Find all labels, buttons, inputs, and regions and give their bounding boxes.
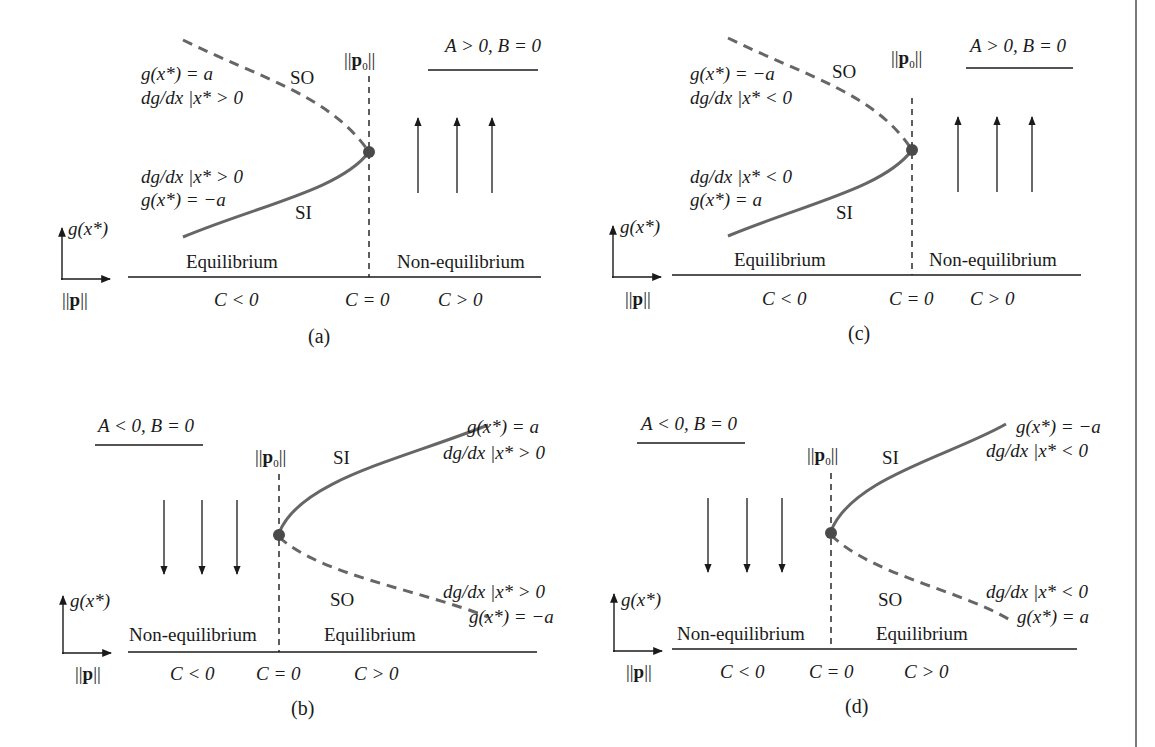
panel-b-si-label: SI (333, 448, 350, 467)
norm-bars: || (625, 288, 633, 309)
panel-c-c-zero: C = 0 (889, 289, 934, 308)
p-symbol: p (899, 47, 910, 68)
panel-d-y-axis-label: g(x*) (621, 590, 661, 609)
panel-b-y-axis-label: g(x*) (70, 591, 110, 610)
panel-b-c-negative: C < 0 (170, 664, 215, 683)
panel-a-c-zero: C = 0 (345, 290, 390, 309)
bifurcation-point (273, 529, 285, 541)
panel-a-right-region: Non-equilibrium (397, 252, 525, 271)
norm-bars: || (75, 663, 83, 684)
panel-c-right-region: Non-equilibrium (929, 250, 1057, 269)
norm-bars: || (644, 661, 652, 682)
p-symbol: p (815, 444, 826, 465)
norm-bars: || (93, 663, 101, 684)
panel-c-caption: (c) (848, 322, 870, 345)
panel-c-x-axis-label: ||p|| (625, 289, 651, 308)
panel-c-so-slope: dg/dx |x* < 0 (690, 88, 792, 107)
norm-bars: || (80, 289, 88, 310)
panel-a-si-g-value: g(x*) = −a (141, 190, 226, 209)
panel-d-critical-label: ||p0|| (807, 445, 838, 467)
norm-bars: || (915, 47, 923, 68)
panel-b-critical-label: ||p0|| (255, 447, 286, 469)
norm-bars: || (344, 49, 352, 70)
panel-b-condition: A < 0, B = 0 (98, 416, 194, 435)
bifurcation-point (825, 527, 837, 539)
panel-a-si-slope: dg/dx |x* > 0 (141, 167, 243, 186)
panel-c-y-axis-label: g(x*) (620, 217, 660, 236)
panel-d-c-zero: C = 0 (809, 662, 854, 681)
panel-c-so-g-value: g(x*) = −a (690, 64, 775, 83)
norm-bars: || (626, 661, 634, 682)
panel-c-condition: A > 0, B = 0 (970, 36, 1066, 55)
panel-d-si-label: SI (882, 448, 899, 467)
panel-c-critical-label: ||p0|| (891, 48, 922, 70)
panel-a-si-label: SI (295, 203, 312, 222)
panel-d-so-g-value: g(x*) = a (1017, 607, 1089, 626)
norm-bars: || (891, 47, 899, 68)
p-symbol: p (352, 49, 363, 70)
panel-d-left-region: Non-equilibrium (677, 624, 805, 643)
norm-bars: || (255, 446, 263, 467)
panel-d-x-axis-label: ||p|| (626, 662, 652, 681)
panel-d-caption: (d) (845, 695, 868, 718)
panel-b-x-axis-label: ||p|| (75, 664, 101, 683)
panel-d-c-negative: C < 0 (720, 662, 765, 681)
panel-b-c-zero: C = 0 (256, 664, 301, 683)
bifurcation-point (363, 146, 375, 158)
panel-d-condition: A < 0, B = 0 (641, 414, 737, 433)
panel-c-si-slope: dg/dx |x* < 0 (690, 167, 792, 186)
norm-bars: || (831, 444, 839, 465)
p-symbol: p (70, 289, 81, 310)
panel-a-left-region: Equilibrium (186, 252, 278, 271)
panel-c-so-label: SO (832, 62, 856, 81)
panel-c-c-negative: C < 0 (762, 289, 807, 308)
panel-c-left-region: Equilibrium (734, 250, 826, 269)
panel-a-caption: (a) (308, 325, 330, 348)
panel-b-caption: (b) (291, 697, 314, 720)
so-branch (279, 537, 488, 617)
panel-b-so-slope: dg/dx |x* > 0 (443, 582, 545, 601)
p-symbol: p (263, 446, 274, 467)
norm-bars: || (279, 446, 287, 467)
si-branch (831, 424, 1006, 531)
p-symbol: p (633, 288, 644, 309)
so-branch (831, 535, 1010, 620)
panel-d-right-region: Equilibrium (876, 624, 968, 643)
panel-d-si-slope: dg/dx |x* < 0 (986, 441, 1088, 460)
panel-a-so-slope: dg/dx |x* > 0 (141, 88, 243, 107)
panel-b-so-g-value: g(x*) = −a (469, 607, 554, 626)
panel-b-si-g-value: g(x*) = a (467, 417, 539, 436)
panel-c-si-g-value: g(x*) = a (690, 190, 762, 209)
panel-a-c-positive: C > 0 (438, 290, 483, 309)
panel-b-right-region: Equilibrium (324, 625, 416, 644)
panel-a-x-axis-label: ||p|| (62, 290, 88, 309)
panel-a-so-g-value: g(x*) = a (141, 64, 213, 83)
panel-b-si-slope: dg/dx |x* > 0 (443, 443, 545, 462)
panel-a-condition: A > 0, B = 0 (445, 36, 541, 55)
panel-d-c-positive: C > 0 (904, 662, 949, 681)
p-symbol: p (634, 661, 645, 682)
bifurcation-point (906, 144, 918, 156)
norm-bars: || (643, 288, 651, 309)
panel-c-si-label: SI (836, 203, 853, 222)
panel-d-so-slope: dg/dx |x* < 0 (986, 582, 1088, 601)
panel-c-c-positive: C > 0 (970, 289, 1015, 308)
panel-d-si-g-value: g(x*) = −a (1016, 417, 1101, 436)
norm-bars: || (62, 289, 70, 310)
panel-b-so-label: SO (330, 590, 354, 609)
panel-b-left-region: Non-equilibrium (129, 625, 257, 644)
norm-bars: || (807, 444, 815, 465)
panel-a-c-negative: C < 0 (214, 290, 259, 309)
norm-bars: || (368, 49, 376, 70)
panel-d-so-label: SO (878, 590, 902, 609)
p-symbol: p (83, 663, 94, 684)
panel-a-critical-label: ||p0|| (344, 50, 375, 72)
panel-b-c-positive: C > 0 (354, 664, 399, 683)
panel-a-so-label: SO (290, 68, 314, 87)
panel-a-y-axis-label: g(x*) (68, 219, 108, 238)
